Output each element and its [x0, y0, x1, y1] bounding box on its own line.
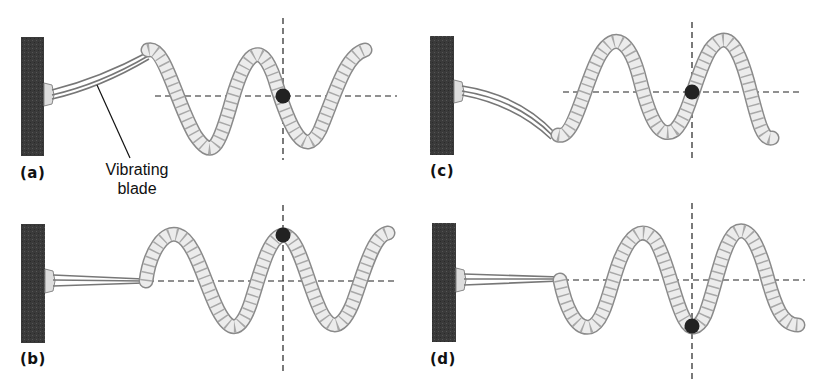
- wall: [432, 223, 456, 342]
- tracked-point: [276, 228, 291, 243]
- tracked-point: [685, 319, 700, 334]
- vibrating-blade: [53, 275, 143, 286]
- blade-clamp: [45, 269, 55, 293]
- panel-d: (d): [410, 195, 825, 391]
- panel-c: (c): [410, 0, 825, 195]
- blade-clamp: [456, 268, 466, 292]
- wall: [430, 36, 454, 155]
- rope-wave-diagram-b: [0, 195, 410, 391]
- tracked-point: [276, 89, 291, 104]
- tracked-point: [685, 85, 700, 100]
- panel-a: (a) Vibrating blade: [0, 0, 410, 195]
- panel-b: (b): [0, 195, 410, 391]
- rope-wave-diagram-d: [410, 195, 825, 391]
- vibrating-blade: [464, 274, 560, 285]
- panel-label-b: (b): [20, 350, 46, 368]
- callout-line1: Vibrating: [92, 160, 182, 179]
- rope-wave-diagram-c: [410, 0, 825, 195]
- panel-label-c: (c): [430, 162, 454, 180]
- rope-wave-diagram-a: [0, 0, 410, 195]
- vibrating-blade: [462, 86, 555, 139]
- panel-label-d: (d): [430, 350, 456, 368]
- wall: [21, 224, 45, 343]
- wall: [21, 37, 44, 156]
- panel-label-a: (a): [20, 164, 45, 182]
- vibrating-blade-label: Vibrating blade: [92, 160, 182, 198]
